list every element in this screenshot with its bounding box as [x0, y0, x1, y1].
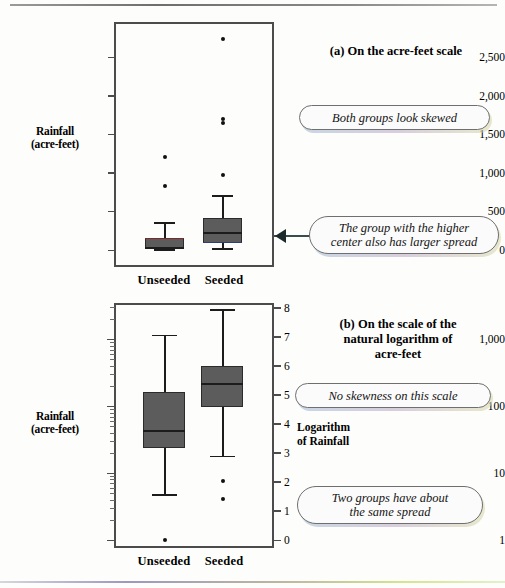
panel-a-title: (a) On the acre-feet scale: [296, 44, 496, 59]
panel-b-y-axis-title: Rainfall (acre-feet): [12, 410, 98, 436]
panel-a-y-axis-title-line1: Rainfall: [12, 125, 98, 138]
panel-b-minortick-20: [110, 453, 115, 454]
seeded-whisker-cap-lower-a: [212, 248, 233, 250]
panel-a-tickmark-500: [108, 211, 115, 213]
seeded-outlier-a-2: [221, 121, 225, 125]
panel-b-rtickmark-5: [273, 394, 281, 396]
panel-b-tickmark-100: [107, 406, 115, 408]
panel-a-bubble-spread: The group with the higher center also ha…: [309, 216, 499, 254]
panel-b-title-line2: natural logarithm of: [300, 332, 496, 347]
panel-a-tickmark-1000: [108, 172, 115, 174]
seeded-whisker-cap-lower-b: [210, 456, 235, 458]
panel-a-tickmark-1500: [108, 134, 115, 136]
unseeded-whisker-cap-lower-b: [152, 494, 177, 496]
seeded-whisker-cap-upper-b: [210, 309, 235, 311]
panel-b-bubble-no-skewness: No skewness on this scale: [295, 383, 491, 408]
panel-b-minortick-9: [110, 476, 115, 477]
panel-b-minortick-50: [110, 426, 115, 427]
panel-b-minortick-60: [110, 421, 115, 422]
panel-b-tickmark-1000: [107, 339, 115, 341]
figure-page: Rainfall (acre-feet) 0 500 1,000 1,500 2…: [0, 0, 505, 588]
panel-b-rtick-1: 1: [284, 505, 290, 517]
panel-b-rtick-8: 8: [284, 302, 290, 314]
panel-b-right-axis-label-line1: Logarithm: [297, 421, 407, 435]
panel-b-minortick-700: [110, 350, 115, 351]
panel-b-rtick-0: 0: [284, 534, 290, 546]
panel-a-tickmark-2000: [108, 95, 115, 97]
panel-b-minortick-40: [110, 433, 115, 434]
seeded-outlier-b-1: [221, 479, 225, 483]
panel-a-plot-frame: [114, 22, 274, 267]
seeded-whisker-upper-b: [222, 310, 224, 366]
panel-a-bubble-skewed: Both groups look skewed: [299, 105, 490, 130]
seeded-whisker-lower-b: [222, 407, 224, 456]
panel-b-minortick-3000: [110, 307, 115, 308]
seeded-outlier-a-3: [221, 117, 225, 121]
panel-b: Rainfall (acre-feet) 1 10 100 1,000: [0, 295, 505, 588]
panel-b-bubble-same-spread: Two groups have about the same spread: [297, 486, 483, 524]
panel-a-tickmark-0: [108, 250, 115, 252]
panel-b-rtickmark-7: [273, 336, 281, 338]
panel-b-rtick-7: 7: [284, 331, 290, 343]
panel-a-bubble-spread-line2: center also has larger spread: [331, 235, 477, 249]
seeded-median-b: [201, 383, 243, 385]
panel-b-ytick-10: 10: [397, 467, 505, 479]
seeded-box-a: [203, 218, 242, 242]
unseeded-outlier-a-1: [163, 184, 167, 188]
panel-b-minortick-2: [110, 520, 115, 521]
seeded-whisker-upper-a: [222, 196, 224, 219]
panel-b-rtick-4: 4: [284, 418, 290, 430]
panel-b-right-axis-label-line2: of Rainfall: [297, 435, 407, 449]
panel-b-title-line1: (b) On the scale of the: [300, 317, 496, 332]
panel-b-ytick-1: 1: [397, 534, 505, 546]
panel-b-y-axis-title-line2: (acre-feet): [12, 423, 98, 436]
unseeded-whisker-cap-upper-b: [152, 335, 177, 337]
panel-b-minortick-7: [110, 483, 115, 484]
panel-b-rtick-3: 3: [284, 447, 290, 459]
panel-b-minortick-200: [110, 386, 115, 387]
panel-b-minortick-600: [110, 354, 115, 355]
seeded-median-a: [203, 232, 242, 234]
panel-b-minortick-300: [110, 374, 115, 375]
panel-a-ytick-2000: 2,000: [397, 90, 505, 102]
panel-b-rtick-5: 5: [284, 389, 290, 401]
panel-b-minortick-90: [110, 409, 115, 410]
panel-a-tickmark-2500: [108, 57, 115, 59]
unseeded-median-b: [143, 430, 185, 432]
panel-b-rtickmark-1: [273, 510, 281, 512]
unseeded-whisker-upper-b: [164, 335, 166, 392]
seeded-outlier-a-1: [221, 173, 225, 177]
panel-b-tickmark-1: [107, 540, 115, 542]
seeded-outlier-a-4: [221, 37, 225, 41]
panel-b-minortick-6: [110, 488, 115, 489]
panel-b-rtickmark-0: [273, 540, 281, 542]
seeded-outlier-b-2: [221, 497, 225, 501]
panel-b-minortick-5: [110, 493, 115, 494]
panel-a-y-axis-title: Rainfall (acre-feet): [12, 125, 98, 151]
panel-b-rtick-2: 2: [284, 476, 290, 488]
panel-a-xlabel-unseeded: Unseeded: [138, 273, 191, 288]
panel-b-minortick-3: [110, 508, 115, 509]
panel-b-minortick-900: [110, 342, 115, 343]
panel-b-rtickmark-6: [273, 365, 281, 367]
panel-a-y-axis-title-line2: (acre-feet): [12, 138, 98, 151]
panel-b-minortick-70: [110, 417, 115, 418]
panel-b-xlabel-unseeded: Unseeded: [138, 554, 191, 569]
unseeded-outlier-a-2: [163, 155, 167, 159]
unseeded-box-top-tint-a: [145, 238, 184, 240]
seeded-box-b: [201, 366, 243, 407]
panel-b-rtickmark-3: [273, 452, 281, 454]
panel-a: Rainfall (acre-feet) 0 500 1,000 1,500 2…: [0, 0, 505, 295]
seeded-whisker-cap-upper-a: [212, 195, 233, 197]
unseeded-whisker-cap-lower-a: [154, 249, 175, 251]
panel-b-title-line3: acre-feet: [300, 347, 496, 362]
panel-b-minortick-80: [110, 413, 115, 414]
panel-b-minortick-8: [110, 479, 115, 480]
unseeded-whisker-cap-upper-a: [154, 222, 175, 224]
panel-b-rtickmark-8: [273, 307, 281, 309]
panel-a-ytick-1000: 1,000: [397, 167, 505, 179]
panel-a-callout-arrow-head: [275, 229, 286, 243]
panel-b-plot-frame: [114, 303, 274, 548]
panel-b-minortick-2000: [110, 319, 115, 320]
panel-a-bubble-spread-line1: The group with the higher: [339, 221, 469, 235]
